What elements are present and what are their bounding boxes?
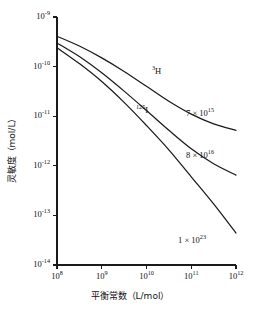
x-tick-label: 1012 — [220, 272, 252, 281]
x-tick-label: 1011 — [175, 272, 207, 281]
activity-label-1e23: 1 × 1023 — [178, 235, 206, 245]
data-curves — [57, 36, 236, 233]
activity-label-3H: 7 × 1015 — [186, 108, 214, 118]
curve-1e23 — [57, 48, 236, 233]
y-tick-label: 10-9 — [0, 12, 50, 21]
x-tick-label: 108 — [41, 272, 73, 281]
x-axis-title: 平衡常数（L/mol） — [0, 289, 260, 302]
chart-container: 10-910-1010-1110-1210-1310-14 1081091010… — [0, 0, 260, 309]
y-axis-ticks — [53, 17, 57, 265]
y-tick-label: 10-13 — [0, 210, 50, 219]
activity-label-125I: 8 × 1016 — [186, 150, 214, 160]
x-axis-ticks — [57, 265, 236, 269]
x-tick-label: 1010 — [131, 272, 163, 281]
y-tick-label: 10-14 — [0, 260, 50, 269]
isotope-label-125I: 125I — [136, 105, 148, 115]
y-axis-title: 灵敏度（mol/L） — [5, 94, 18, 204]
isotope-label-3H: 3H — [152, 66, 161, 76]
x-tick-label: 109 — [86, 272, 118, 281]
y-tick-label: 10-10 — [0, 62, 50, 71]
